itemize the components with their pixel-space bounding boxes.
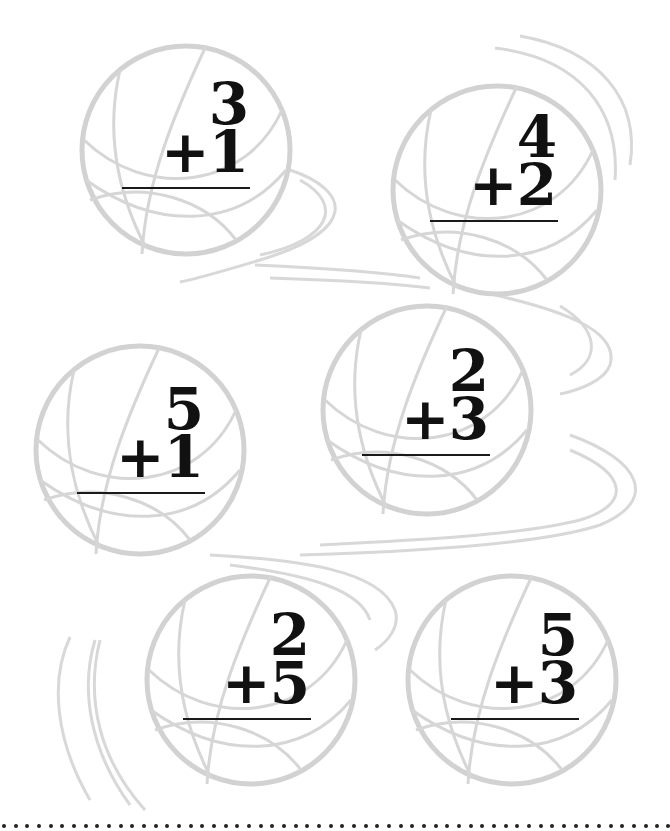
answer-line[interactable] — [77, 492, 205, 494]
answer-line[interactable] — [430, 220, 558, 222]
addend-bottom: +1 — [161, 123, 248, 181]
addend-bottom: +2 — [469, 156, 556, 214]
answer-line[interactable] — [451, 718, 579, 720]
addend-bottom: +3 — [490, 654, 577, 712]
addend-bottom: +5 — [222, 654, 309, 712]
dotted-cut-line — [2, 824, 670, 828]
addend-bottom: +3 — [401, 390, 488, 448]
answer-line[interactable] — [183, 718, 311, 720]
answer-line[interactable] — [362, 454, 490, 456]
answer-line[interactable] — [122, 187, 250, 189]
addend-bottom: +1 — [116, 428, 203, 486]
